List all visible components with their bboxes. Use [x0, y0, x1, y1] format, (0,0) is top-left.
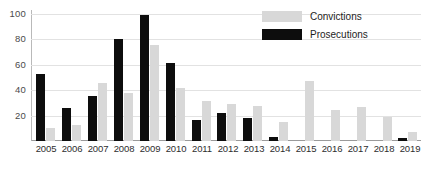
bar-prosecutions: [217, 113, 226, 141]
legend-item-prosecutions: Prosecutions: [262, 29, 368, 40]
legend-item-convictions: Convictions: [262, 11, 368, 22]
x-tick-label: 2011: [189, 144, 215, 154]
legend-label-convictions: Convictions: [310, 12, 362, 22]
x-tick-label: 2006: [59, 144, 85, 154]
x-tick-label: 2019: [397, 144, 423, 154]
bar-convictions: [279, 122, 288, 141]
bar-group: [214, 10, 240, 141]
bar-convictions: [331, 110, 340, 142]
bar-group: [85, 10, 111, 141]
bar-convictions: [383, 117, 392, 141]
bar-prosecutions: [36, 74, 45, 141]
bar-prosecutions: [140, 15, 149, 141]
bar-prosecutions: [114, 39, 123, 141]
bar-prosecutions: [398, 138, 407, 141]
bar-convictions: [150, 45, 159, 141]
x-tick-label: 2015: [293, 144, 319, 154]
x-tick-label: 2016: [319, 144, 345, 154]
bar-group: [33, 10, 59, 141]
chart-legend: Convictions Prosecutions: [262, 11, 368, 40]
bar-convictions: [408, 132, 417, 141]
y-tick-label: 60: [0, 60, 26, 70]
bar-prosecutions: [243, 118, 252, 141]
x-axis: 2005200620072008200920102011201220132014…: [33, 144, 423, 154]
bar-group: [136, 10, 162, 141]
y-tick-label: 20: [0, 111, 26, 121]
legend-label-prosecutions: Prosecutions: [310, 30, 368, 40]
x-tick-label: 2018: [371, 144, 397, 154]
bar-group: [188, 10, 214, 141]
x-tick-label: 2009: [137, 144, 163, 154]
bar-prosecutions: [269, 137, 278, 141]
bar-group: [395, 10, 421, 141]
bar-convictions: [253, 106, 262, 141]
x-tick-label: 2008: [111, 144, 137, 154]
bar-convictions: [124, 93, 133, 141]
bar-group: [369, 10, 395, 141]
bar-convictions: [98, 83, 107, 141]
bar-convictions: [227, 104, 236, 141]
bar-prosecutions: [166, 63, 175, 141]
y-tick-label: 40: [0, 85, 26, 95]
bar-group: [162, 10, 188, 141]
x-tick-label: 2005: [33, 144, 59, 154]
bar-convictions: [305, 81, 314, 141]
bar-group: [59, 10, 85, 141]
convictions-swatch-icon: [262, 11, 302, 22]
y-tick-label: 100: [0, 9, 26, 19]
bar-convictions: [46, 128, 55, 141]
x-tick-label: 2010: [163, 144, 189, 154]
x-tick-label: 2013: [241, 144, 267, 154]
x-tick-label: 2007: [85, 144, 111, 154]
x-tick-label: 2017: [345, 144, 371, 154]
x-tick-label: 2014: [267, 144, 293, 154]
x-tick-label: 2012: [215, 144, 241, 154]
bar-prosecutions: [62, 108, 71, 141]
bar-convictions: [202, 101, 211, 141]
bar-group: [111, 10, 137, 141]
prosecutions-swatch-icon: [262, 29, 302, 40]
bar-convictions: [72, 125, 81, 141]
bar-prosecutions: [192, 120, 201, 141]
y-tick-label: 80: [0, 35, 26, 45]
bar-convictions: [176, 88, 185, 141]
bar-chart: 100 80 60 40 20 200520062007200820092010…: [0, 0, 430, 170]
bar-convictions: [357, 107, 366, 141]
bar-prosecutions: [88, 96, 97, 141]
